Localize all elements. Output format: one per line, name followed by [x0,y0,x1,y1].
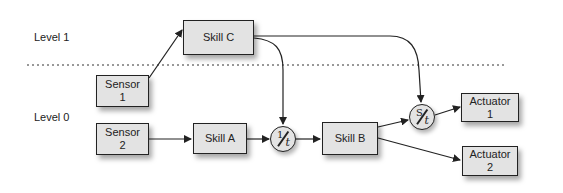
inverse-t-denominator: t [286,136,290,149]
actuator-2-node: Actuator 2 [462,146,518,176]
skill-b-label: Skill B [335,132,366,145]
skill-c-label: Skill C [203,31,234,44]
skill-b-node: Skill B [322,122,378,155]
skill-a-node: Skill A [193,123,247,154]
actuator-1-node: Actuator 1 [461,93,519,122]
s-over-t-denominator: t [425,114,429,127]
skill-c-node: Skill C [183,20,254,55]
actuator-2-label: Actuator 2 [470,148,511,174]
sensor-1-node: Sensor 1 [96,75,149,107]
inverse-t-operator: 1 t [270,126,296,152]
sensor-1-label: Sensor 1 [105,78,140,104]
sensor-2-node: Sensor 2 [96,123,149,155]
sensor-2-label: Sensor 2 [105,126,140,152]
s-over-t-operator: S t [409,104,435,130]
skill-a-label: Skill A [205,132,235,145]
actuator-1-label: Actuator 1 [470,95,511,121]
